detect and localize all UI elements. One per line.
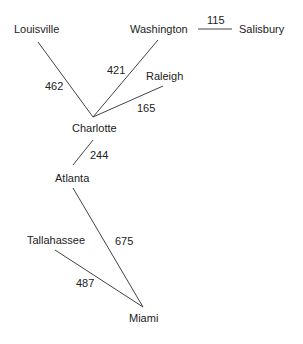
weight-raleigh-charlotte: 165 [137, 103, 155, 114]
weight-charlotte-atlanta: 244 [90, 150, 108, 161]
route-graph: Louisville Washington Salisbury Raleigh … [0, 0, 303, 344]
weight-louisville-charlotte: 462 [45, 81, 63, 92]
edge-atlanta-miami [73, 188, 143, 307]
weight-washington-salisbury: 115 [207, 15, 225, 26]
node-washington: Washington [130, 24, 188, 35]
weight-atlanta-miami: 675 [115, 236, 133, 247]
node-charlotte: Charlotte [72, 123, 117, 134]
node-tallahassee: Tallahassee [27, 235, 85, 246]
node-atlanta: Atlanta [55, 173, 89, 184]
node-louisville: Louisville [14, 24, 59, 35]
edge-tallahassee-miami [55, 250, 143, 307]
node-raleigh: Raleigh [146, 71, 183, 82]
node-salisbury: Salisbury [239, 24, 284, 35]
node-miami: Miami [129, 313, 158, 324]
weight-tallahassee-miami: 487 [76, 278, 94, 289]
weight-washington-charlotte: 421 [107, 65, 125, 76]
edges-layer [0, 0, 303, 344]
